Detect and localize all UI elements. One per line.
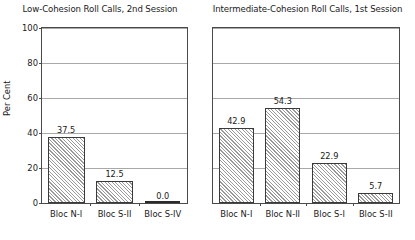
x-tick-label: Bloc N-II	[265, 209, 300, 219]
bar-slot: 0.0	[139, 28, 187, 203]
gridline	[42, 133, 187, 134]
y-tick-label: 20	[27, 163, 38, 173]
y-tick-mark	[39, 133, 42, 134]
bar-slot: 5.7	[353, 28, 400, 203]
x-tick-mark	[306, 203, 307, 206]
x-tick-mark	[260, 203, 261, 206]
y-tick-label: 0	[33, 198, 38, 208]
plot-area-right: 42.954.322.95.7 Bloc N-IBloc N-IIBloc S-…	[212, 27, 400, 204]
bar-value-label: 12.5	[90, 169, 138, 179]
x-tick-mark	[139, 203, 140, 206]
x-tick-label: Bloc S-I	[314, 209, 345, 219]
gridline	[213, 168, 399, 169]
x-tick-label: Bloc S-II	[98, 209, 132, 219]
y-axis-title: Per Cent	[2, 80, 12, 116]
bar-slot: 37.5	[42, 28, 90, 203]
gridline	[42, 63, 187, 64]
bars-right: 42.954.322.95.7	[213, 28, 399, 203]
y-tick-mark	[39, 63, 42, 64]
x-tick-label: Bloc N-I	[50, 209, 82, 219]
bar-value-label: 42.9	[213, 116, 260, 126]
y-tick-mark	[39, 203, 42, 204]
plot-area-left: 020406080100 37.512.50.0 Bloc N-IBloc S-…	[41, 27, 188, 204]
panel-title-right: Intermediate-Cohesion Roll Calls, 1st Se…	[200, 4, 415, 14]
bar	[96, 181, 133, 203]
x-tick-mark	[353, 203, 354, 206]
bar	[265, 108, 300, 203]
gridline	[42, 168, 187, 169]
bar	[145, 201, 180, 203]
y-tick-label: 100	[22, 23, 38, 33]
y-tick-mark	[39, 28, 42, 29]
gridline	[213, 28, 399, 29]
bar	[358, 193, 393, 203]
bar-value-label: 0.0	[139, 191, 187, 201]
bar	[219, 128, 254, 203]
gridline	[42, 28, 187, 29]
gridline	[213, 133, 399, 134]
y-tick-mark	[39, 168, 42, 169]
bar-slot: 54.3	[260, 28, 307, 203]
bar-value-label: 5.7	[353, 181, 400, 191]
gridline	[213, 63, 399, 64]
bars-left: 37.512.50.0	[42, 28, 187, 203]
figure: Low-Cohesion Roll Calls, 2nd Session 020…	[0, 0, 415, 240]
bar-value-label: 22.9	[306, 151, 353, 161]
bar-slot: 22.9	[306, 28, 353, 203]
gridline	[42, 98, 187, 99]
y-tick-label: 80	[27, 58, 38, 68]
x-tick-label: Bloc S-IV	[144, 209, 181, 219]
chart-panel-intermediate-cohesion: Intermediate-Cohesion Roll Calls, 1st Se…	[200, 0, 415, 240]
gridline	[213, 98, 399, 99]
y-tick-label: 40	[27, 128, 38, 138]
y-tick-mark	[39, 98, 42, 99]
x-tick-mark	[90, 203, 91, 206]
chart-panel-low-cohesion: Low-Cohesion Roll Calls, 2nd Session 020…	[0, 0, 200, 240]
x-tick-label: Bloc N-I	[220, 209, 252, 219]
bar-slot: 12.5	[90, 28, 138, 203]
panel-title-left: Low-Cohesion Roll Calls, 2nd Session	[0, 4, 200, 14]
bar	[48, 137, 85, 203]
x-tick-label: Bloc S-II	[359, 209, 393, 219]
y-tick-label: 60	[27, 93, 38, 103]
bar-slot: 42.9	[213, 28, 260, 203]
